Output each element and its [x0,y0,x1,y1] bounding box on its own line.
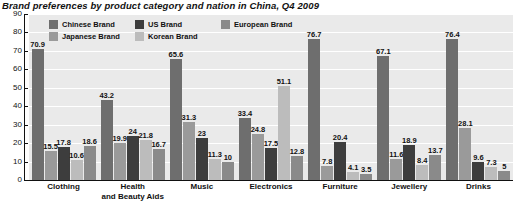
bar-slot: 7.8 [321,14,333,180]
x-axis-label: Health and Beauty Aids [98,182,167,201]
bar[interactable]: 76.4 [446,39,458,180]
y-tick-label: 40 [13,102,22,110]
bar[interactable]: 24 [127,136,139,180]
bar-group: 67.111.618.98.413.7 [375,14,444,180]
bar-value-label: 21.8 [138,132,153,140]
bar-value-label: 4.1 [348,164,358,172]
bar[interactable]: 43.2 [101,100,113,180]
bar[interactable]: 24.8 [252,134,264,180]
bar[interactable]: 19.9 [114,143,126,180]
bar-value-label: 16.7 [151,141,166,149]
y-tick-label: 50 [13,84,22,92]
chart-title: Brand preferences by product category an… [2,0,319,11]
bar[interactable]: 16.7 [153,149,165,180]
bar-value-label: 3.5 [361,166,371,174]
bar[interactable]: 3.5 [360,174,372,180]
legend-swatch [135,20,144,29]
y-axis-labels: 9080706050403020100 [0,0,22,211]
x-axis-label: Music [167,182,236,201]
y-tick-label: 80 [13,28,22,36]
bar-value-label: 12.8 [290,148,305,156]
bar[interactable]: 65.6 [170,59,182,180]
legend-item[interactable]: US Brand [135,19,221,30]
legend-label: US Brand [148,20,182,29]
bar-slot: 11.6 [390,14,402,180]
x-axis-label: Drinks [444,182,513,201]
bar-value-label: 51.1 [277,78,292,86]
bar[interactable]: 20.4 [334,142,346,180]
bar-slot: 7.3 [485,14,497,180]
y-tick-label: 0 [18,176,22,184]
bar-slot: 9.6 [472,14,484,180]
bar[interactable]: 23 [196,138,208,180]
bar[interactable]: 31.3 [183,122,195,180]
bar[interactable]: 15.5 [45,151,57,180]
bar[interactable]: 9.6 [472,162,484,180]
y-tick-label: 60 [13,65,22,73]
bar[interactable]: 7.3 [485,167,497,180]
x-axis-label: Electronics [236,182,305,201]
bar[interactable]: 17.8 [58,147,70,180]
bar-group: 76.428.19.67.35 [444,14,513,180]
y-tick-label: 10 [13,158,22,166]
bar-slot: 76.4 [446,14,458,180]
bar-value-label: 31.3 [182,114,197,122]
y-tick-mark [24,125,28,126]
bar-value-label: 65.6 [169,51,184,59]
y-tick-mark [24,88,28,89]
legend-item[interactable]: Japanese Brand [49,31,135,42]
y-tick-mark [24,180,28,181]
bar[interactable]: 67.1 [377,56,389,180]
bar-value-label: 10 [224,154,232,162]
bar-value-label: 5 [502,163,506,171]
bar[interactable]: 10 [222,162,234,180]
chart-legend: Chinese BrandUS BrandEuropean BrandJapan… [49,19,321,42]
bar-slot: 67.1 [377,14,389,180]
bar[interactable]: 18.6 [84,146,96,180]
bar-slot: 13.7 [429,14,441,180]
bar[interactable]: 11.6 [390,159,402,180]
bar-slot: 3.5 [360,14,372,180]
x-axis-category-labels: ClothingHealth and Beauty AidsMusicElect… [29,182,513,201]
y-tick-mark [24,106,28,107]
bar[interactable]: 11.3 [209,159,221,180]
bar-value-label: 23 [198,130,206,138]
bar-value-label: 13.7 [428,147,443,155]
x-axis-label: Furniture [306,182,375,201]
bar[interactable]: 12.8 [291,156,303,180]
bar[interactable]: 33.4 [239,118,251,180]
legend-item[interactable]: Chinese Brand [49,19,135,30]
bar[interactable]: 17.5 [265,148,277,180]
bar-value-label: 10.6 [69,152,84,160]
legend-swatch [135,32,144,41]
bar[interactable]: 8.4 [416,165,428,180]
bar-value-label: 17.8 [56,139,71,147]
bar[interactable]: 70.9 [32,49,44,180]
bar-value-label: 7.3 [486,159,496,167]
bar[interactable]: 4.1 [347,172,359,180]
x-axis-line [24,180,513,181]
y-tick-label: 20 [13,139,22,147]
bar[interactable]: 5 [498,171,510,180]
bar-slot: 20.4 [334,14,346,180]
x-axis-label: Clothing [29,182,98,201]
legend-item[interactable]: Korean Brand [135,31,221,42]
legend-swatch [49,32,58,41]
bar[interactable]: 10.6 [71,160,83,180]
y-tick-mark [24,162,28,163]
legend-label: Chinese Brand [62,20,115,29]
bar-value-label: 70.9 [30,41,45,49]
bar[interactable]: 28.1 [459,128,471,180]
bar[interactable]: 18.9 [403,145,415,180]
legend-item[interactable]: European Brand [221,19,321,30]
bar-value-label: 18.6 [82,138,97,146]
bar[interactable]: 13.7 [429,155,441,180]
bar-value-label: 24.8 [251,126,266,134]
bar[interactable]: 51.1 [278,86,290,180]
bar[interactable]: 76.7 [308,39,320,180]
bar[interactable]: 7.8 [321,166,333,180]
bar-slot: 8.4 [416,14,428,180]
bar-value-label: 11.3 [208,151,222,159]
bar[interactable]: 21.8 [140,140,152,180]
y-tick-mark [24,32,28,33]
